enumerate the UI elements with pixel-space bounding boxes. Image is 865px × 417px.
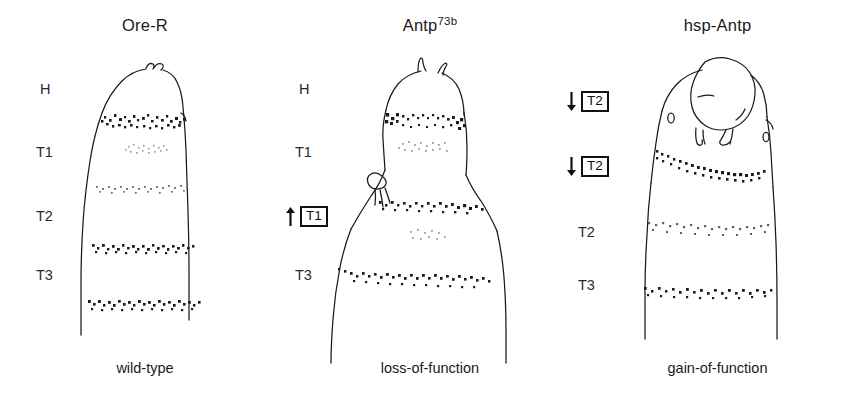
segment-label-h: H <box>299 82 309 97</box>
denticle-band-t2 <box>96 185 188 194</box>
annotation-boxed-label: T1 <box>300 206 328 227</box>
annotation-transformation-t2-to-t1: T1 <box>285 206 328 227</box>
denticle-patch-t1-faint <box>398 141 448 152</box>
denticle-band-t2 <box>648 222 769 236</box>
annotation-boxed-label: T2 <box>581 156 609 177</box>
denticle-band-t1 <box>101 114 186 129</box>
denticle-band-t3 <box>338 268 490 288</box>
segment-label-t2: T2 <box>36 209 53 224</box>
denticle-band-t1 <box>385 113 466 130</box>
denticle-patch-t1-faint <box>125 144 168 154</box>
arrow-up-icon <box>285 206 296 227</box>
segment-label-h: H <box>40 82 50 97</box>
panel-loss-of-function: Antp73b <box>290 0 570 417</box>
annotation-transformation-t1-to-t2: T2 <box>566 156 609 177</box>
segment-label-t1: T1 <box>295 145 312 160</box>
panel-caption-wild-type: wild-type <box>0 360 290 376</box>
panel-gain-of-function: hsp-Antp <box>570 0 865 417</box>
segment-label-t3: T3 <box>36 268 53 283</box>
denticle-band-t2-transformed <box>379 201 484 214</box>
arrow-down-icon <box>566 91 577 112</box>
denticle-band-a1 <box>88 300 201 311</box>
larva-drawing-gain-of-function <box>570 0 865 417</box>
annotation-transformation-head-to-t2: T2 <box>566 91 609 112</box>
segment-label-t1: T1 <box>36 145 53 160</box>
panel-wild-type: Ore-R <box>0 0 290 417</box>
larva-drawing-loss-of-function <box>290 0 570 417</box>
denticle-band-t3 <box>92 244 194 254</box>
denticle-patch-t2-faint <box>410 229 446 240</box>
segment-label-t3: T3 <box>578 278 595 293</box>
denticle-band-t1-transformed <box>656 150 766 183</box>
denticle-band-t3 <box>644 287 772 299</box>
figure-drosophila-antennapedia-phenotypes: Ore-R <box>0 0 865 417</box>
segment-label-t2: T2 <box>578 225 595 240</box>
annotation-boxed-label: T2 <box>581 91 609 112</box>
segment-label-t3: T3 <box>295 268 312 283</box>
arrow-down-icon <box>566 156 577 177</box>
panel-caption-loss-of-function: loss-of-function <box>290 360 570 376</box>
panel-caption-gain-of-function: gain-of-function <box>570 360 865 376</box>
